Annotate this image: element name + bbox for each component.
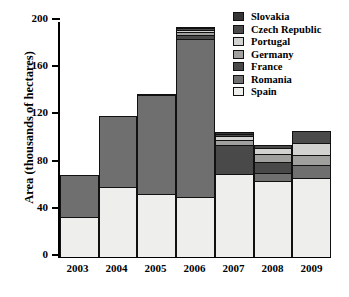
legend-item-france[interactable]: France <box>233 61 321 73</box>
x-tick-label-2007: 2007 <box>214 262 253 274</box>
legend-swatch-icon <box>233 12 244 21</box>
x-tick-label-2005: 2005 <box>136 262 175 274</box>
legend-swatch-icon <box>233 62 244 71</box>
legend-label: France <box>251 61 283 72</box>
bar-segment-spain-2008 <box>254 181 293 257</box>
legend-swatch-icon <box>233 87 244 96</box>
bar-segment-romania-2009 <box>292 165 331 179</box>
bar-segment-spain-2006 <box>176 197 215 257</box>
x-axis-tick-labels: 2003200420052006200720082009 <box>58 262 331 274</box>
bar-segment-romania-2006 <box>176 39 215 198</box>
x-tick-label-2009: 2009 <box>292 262 331 274</box>
legend-item-spain[interactable]: Spain <box>233 86 321 98</box>
bar-segment-spain-2003 <box>60 217 99 257</box>
legend-item-portugal[interactable]: Portugal <box>233 36 321 48</box>
y-tick-40: 40 <box>52 207 60 209</box>
y-tick-80: 80 <box>52 160 60 162</box>
legend-label: Spain <box>251 86 277 97</box>
legend-swatch-icon <box>233 50 244 59</box>
legend-swatch-icon <box>233 75 244 84</box>
y-tick-label: 80 <box>37 154 48 166</box>
bar-column-2006 <box>176 22 215 256</box>
y-tick-200: 200 <box>52 18 60 20</box>
bar-column-2004 <box>99 22 138 256</box>
bar-column-2003 <box>60 22 99 256</box>
legend-label: Romania <box>251 74 292 85</box>
x-tick-label-2004: 2004 <box>97 262 136 274</box>
y-tick-0: 0 <box>52 254 60 256</box>
bar-segment-spain-2009 <box>292 178 331 257</box>
x-tick-label-2008: 2008 <box>253 262 292 274</box>
y-tick-label: 200 <box>32 12 49 24</box>
legend-label: Slovakia <box>251 11 290 22</box>
bar-segment-france-2007 <box>215 145 254 176</box>
legend-label: Czech Republic <box>251 24 321 35</box>
legend-item-czech-republic[interactable]: Czech Republic <box>233 24 321 36</box>
legend-label: Germany <box>251 49 294 60</box>
legend-item-slovakia[interactable]: Slovakia <box>233 11 321 23</box>
stacked-bar-chart: Area (thousands of hectares) 04080120160… <box>0 0 349 297</box>
bar-column-2005 <box>137 22 176 256</box>
legend: SlovakiaCzech RepublicPortugalGermanyFra… <box>233 11 321 98</box>
legend-label: Portugal <box>251 36 290 47</box>
x-tick-label-2003: 2003 <box>58 262 97 274</box>
bar-segment-romania-2003 <box>60 175 99 217</box>
bar-segment-spain-2005 <box>137 194 176 257</box>
legend-swatch-icon <box>233 25 244 34</box>
bar-segment-romania-2005 <box>137 95 176 195</box>
bar-segment-spain-2004 <box>99 187 138 257</box>
legend-swatch-icon <box>233 37 244 46</box>
y-tick-160: 160 <box>52 65 60 67</box>
legend-item-romania[interactable]: Romania <box>233 74 321 86</box>
y-tick-120: 120 <box>52 112 60 114</box>
bar-segment-romania-2004 <box>99 116 138 188</box>
y-tick-label: 0 <box>43 248 49 260</box>
y-tick-label: 40 <box>37 201 48 213</box>
x-tick-label-2006: 2006 <box>175 262 214 274</box>
y-tick-label: 120 <box>32 106 49 118</box>
bar-segment-spain-2007 <box>215 174 254 257</box>
y-tick-label: 160 <box>32 59 49 71</box>
legend-item-germany[interactable]: Germany <box>233 49 321 61</box>
